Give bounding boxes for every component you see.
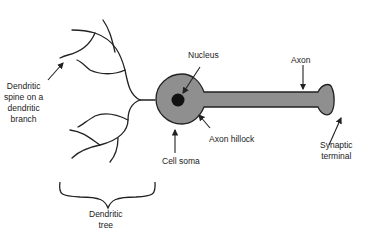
axon-label: Axon bbox=[291, 55, 310, 66]
nucleus-label: Nucleus bbox=[188, 50, 219, 61]
neuron-diagram bbox=[0, 0, 373, 233]
dendritic-spine-label: Dendritic spine on a dendritic branch bbox=[4, 81, 43, 125]
nucleus-shape bbox=[172, 94, 185, 107]
cell-soma-label: Cell soma bbox=[162, 156, 200, 167]
axon-hillock-label: Axon hillock bbox=[209, 134, 254, 145]
dendritic-tree-label: Dendritic tree bbox=[89, 209, 123, 231]
dendritic-tree-brace bbox=[60, 182, 156, 208]
dendritic-tree bbox=[60, 20, 155, 162]
synaptic-terminal-label: Synaptic terminal bbox=[320, 140, 353, 162]
